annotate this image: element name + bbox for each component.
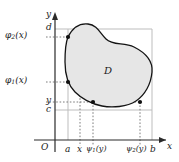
y-tick-d-main: d [46,22,52,32]
point-phi1-x [66,80,70,84]
figure-canvas: y x O D d φ2(x) φ1(x) y c a x ψ1(y) ψ2(y… [0,0,179,162]
y-tick-label-phi1: φ1(x) [5,76,27,85]
x-tick-label-x: x [77,145,82,154]
y-axis-arrowhead [52,12,58,20]
x-tick-label-psi2: ψ2(y) [126,145,147,153]
y-axis-label: y [46,10,51,19]
region-d-label: D [104,66,112,76]
x-tick-label-b: b [150,145,156,154]
point-phi2-x [66,35,70,39]
x-tick-x-main: x [77,144,82,154]
point-psi2-y [138,100,142,104]
x-tick-label-a: a [65,145,70,154]
x-tick-psi2-tail: (y) [136,144,147,153]
origin-label: O [41,143,48,152]
x-tick-psi1-tail: (y) [96,144,107,153]
point-psi1-y [91,100,95,104]
y-tick-label-phi2: φ2(x) [5,31,27,40]
x-tick-label-psi1: ψ1(y) [86,145,107,153]
y-tick-label-d: d [46,23,52,32]
x-axis-arrowhead [159,137,166,143]
y-tick-phi2-tail: (x) [15,30,27,40]
y-tick-phi1-tail: (x) [15,75,27,85]
y-tick-c-main: c [46,104,51,114]
y-tick-label-c: c [46,105,51,114]
x-tick-b-main: b [150,144,156,154]
x-axis-label: x [167,142,172,151]
x-tick-a-main: a [65,144,70,154]
